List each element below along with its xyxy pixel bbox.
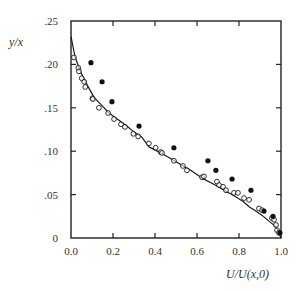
open-circle-marker	[153, 145, 158, 150]
filled-circle-marker	[248, 188, 253, 193]
filled-circle-marker	[270, 214, 275, 219]
open-circle-marker	[123, 124, 128, 129]
open-circle-marker	[242, 196, 247, 201]
x-tick-label: 1.0	[274, 245, 288, 257]
chart: 0.00.20.40.60.81.00.05.10.15.20.25 y/x U…	[0, 0, 303, 291]
plot-frame	[71, 21, 281, 238]
y-tick-label: .20	[44, 58, 58, 70]
open-circle-marker	[82, 79, 87, 84]
plot-border	[71, 21, 281, 238]
filled-circle-marker	[277, 230, 282, 235]
open-circle-marker	[106, 111, 111, 116]
open-circle-marker	[131, 131, 136, 136]
open-circle-marker	[90, 97, 95, 102]
open-circle-marker	[77, 69, 82, 74]
theory-curve	[71, 37, 281, 238]
open-circle-marker	[160, 151, 165, 156]
filled-circle-marker	[99, 79, 104, 84]
axis-ticks	[71, 21, 281, 238]
open-circle-marker	[224, 188, 229, 193]
x-tick-label: 0.2	[106, 245, 120, 257]
open-circle-marker	[136, 134, 141, 139]
open-circle-marker	[274, 223, 279, 228]
x-tick-label: 0.6	[190, 245, 204, 257]
curve-line	[71, 37, 281, 238]
open-circle-marker	[202, 174, 207, 179]
y-axis-label: y/x	[8, 35, 24, 49]
y-tick-label: .25	[44, 15, 58, 27]
filled-circle-marker	[109, 99, 114, 104]
y-tick-label: .10	[44, 145, 58, 157]
open-circle-marker	[247, 197, 252, 202]
open-circle-marker	[181, 164, 186, 169]
open-circle-marker	[72, 55, 77, 60]
y-tick-label: .15	[44, 102, 58, 114]
filled-circle-marker	[229, 176, 234, 181]
y-tick-label: .05	[44, 189, 58, 201]
open-circle-marker	[236, 190, 241, 195]
filled-circle-marker	[213, 168, 218, 173]
y-tick-label: 0	[53, 232, 59, 244]
open-circle-marker	[83, 85, 88, 90]
open-circle-marker	[147, 141, 152, 146]
open-circle-marker	[172, 158, 177, 163]
filled-circle-marker	[205, 158, 210, 163]
open-circle-marker	[112, 117, 117, 122]
filled-circle-marker	[261, 208, 266, 213]
x-tick-label: 0.4	[148, 245, 162, 257]
x-tick-label: 0.8	[232, 245, 246, 257]
x-axis-label: U/U(x,0)	[226, 267, 269, 281]
x-tick-label: 0.0	[64, 245, 78, 257]
filled-circle-marker	[88, 60, 93, 65]
open-circle-marker	[185, 168, 190, 173]
filled-circle-marker	[136, 123, 141, 128]
filled-circle-marker	[171, 145, 176, 150]
tick-labels: 0.00.20.40.60.81.00.05.10.15.20.25	[44, 15, 288, 257]
open-circle-marker	[97, 105, 102, 110]
